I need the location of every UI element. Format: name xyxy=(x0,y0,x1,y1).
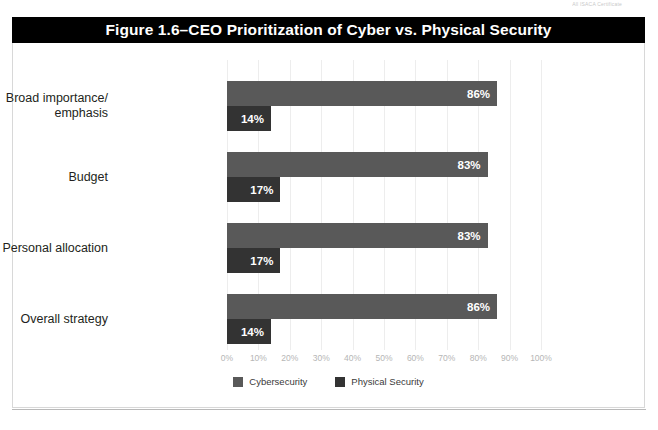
x-axis-tick: 80% xyxy=(470,353,487,363)
bar-value-label: 14% xyxy=(241,326,271,338)
x-axis-tick: 20% xyxy=(281,353,298,363)
category-label-line: Personal allocation xyxy=(0,241,108,256)
bar-physical-security: 14% xyxy=(227,319,271,344)
bar-group: Overall strategy86%14% xyxy=(227,294,541,344)
category-label: Budget xyxy=(0,152,108,202)
x-axis-tick: 30% xyxy=(313,353,330,363)
legend-label: Cybersecurity xyxy=(249,376,307,387)
category-label: Broad importance/emphasis xyxy=(0,81,108,131)
bar-value-label: 17% xyxy=(250,255,280,267)
chart-legend: CybersecurityPhysical Security xyxy=(12,376,645,387)
x-axis-tick: 90% xyxy=(501,353,518,363)
x-axis-tick: 100% xyxy=(530,353,552,363)
x-axis-tick: 60% xyxy=(407,353,424,363)
bar-value-label: 17% xyxy=(250,184,280,196)
gridline xyxy=(541,60,542,350)
bar-value-label: 83% xyxy=(458,159,488,171)
bar-physical-security: 17% xyxy=(227,248,280,273)
bar-group: Budget83%17% xyxy=(227,152,541,202)
x-axis-tick: 40% xyxy=(344,353,361,363)
bar-cybersecurity: 83% xyxy=(227,223,488,248)
x-axis-tick-labels: 0%10%20%30%40%50%60%70%80%90%100% xyxy=(227,353,541,367)
x-axis-tick: 70% xyxy=(438,353,455,363)
bar-group: Broad importance/emphasis86%14% xyxy=(227,81,541,131)
legend-swatch-icon xyxy=(233,377,243,387)
page-header-note: All ISACA Certificate xyxy=(572,1,622,7)
figure-title-bar: Figure 1.6–CEO Prioritization of Cyber v… xyxy=(12,17,645,43)
figure-title: Figure 1.6–CEO Prioritization of Cyber v… xyxy=(105,21,551,39)
bar-chart: Broad importance/emphasis86%14%Budget83%… xyxy=(12,43,645,408)
page-bottom-rule xyxy=(12,409,646,410)
bar-value-label: 14% xyxy=(241,113,271,125)
category-label: Overall strategy xyxy=(0,294,108,344)
bar-physical-security: 14% xyxy=(227,106,271,131)
x-axis-tick: 10% xyxy=(250,353,267,363)
legend-item: Cybersecurity xyxy=(233,376,307,387)
category-label-line: Broad importance/ xyxy=(0,91,108,106)
bar-cybersecurity: 86% xyxy=(227,81,497,106)
legend-item: Physical Security xyxy=(335,376,423,387)
bar-physical-security: 17% xyxy=(227,177,280,202)
bar-value-label: 83% xyxy=(458,230,488,242)
x-axis-tick: 50% xyxy=(375,353,392,363)
x-axis-tick: 0% xyxy=(221,353,233,363)
category-label-line: Budget xyxy=(0,170,108,185)
bar-cybersecurity: 86% xyxy=(227,294,497,319)
bar-cybersecurity: 83% xyxy=(227,152,488,177)
plot-area: Broad importance/emphasis86%14%Budget83%… xyxy=(227,60,541,350)
legend-label: Physical Security xyxy=(351,376,423,387)
category-label-line: emphasis xyxy=(0,106,108,121)
category-label: Personal allocation xyxy=(0,223,108,273)
category-label-line: Overall strategy xyxy=(0,312,108,327)
bar-value-label: 86% xyxy=(467,301,497,313)
bar-group: Personal allocation83%17% xyxy=(227,223,541,273)
bar-value-label: 86% xyxy=(467,88,497,100)
legend-swatch-icon xyxy=(335,377,345,387)
